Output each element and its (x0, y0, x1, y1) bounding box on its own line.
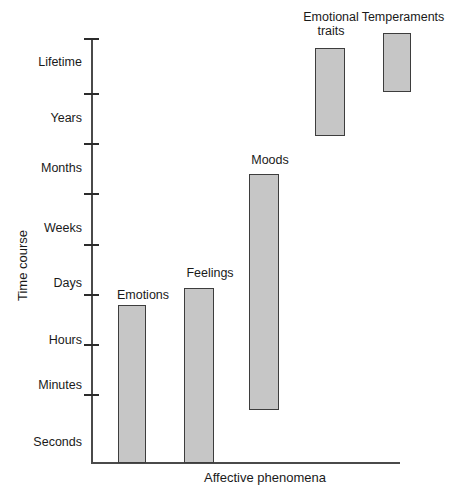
y-axis-tick (84, 143, 99, 145)
y-axis-title: Time course (15, 206, 30, 326)
bar-label: Temperaments (357, 10, 449, 24)
bar-feelings (184, 288, 214, 463)
bar-emotional-traits (315, 48, 345, 136)
y-axis-tick-label: Months (4, 161, 82, 175)
bar-moods (249, 174, 279, 410)
x-axis-title: Affective phenomena (150, 470, 380, 485)
y-axis-tick-label-wrap: Lifetime (0, 55, 82, 69)
y-axis-tick-label-wrap: Days (0, 276, 82, 290)
y-axis-tick (84, 294, 99, 296)
y-axis-tick-label: Seconds (4, 435, 82, 449)
y-axis-tick-label-wrap: Hours (0, 333, 82, 347)
y-axis-tick-label-wrap: Seconds (0, 435, 82, 449)
y-axis-line (91, 38, 93, 464)
y-axis-tick (84, 38, 99, 40)
y-axis-tick-label: Lifetime (4, 55, 82, 69)
y-axis-tick (84, 93, 99, 95)
y-axis-tick (84, 394, 99, 396)
time-course-affective-phenomena-chart: LifetimeYearsMonthsWeeksDaysHoursMinutes… (0, 0, 466, 501)
bar-label: Emotions (106, 288, 180, 302)
y-axis-tick-label-wrap: Weeks (0, 221, 82, 235)
y-axis-tick-label-wrap: Months (0, 161, 82, 175)
y-axis-tick (84, 193, 99, 195)
y-axis-tick (84, 344, 99, 346)
y-axis-tick-label-wrap: Years (0, 111, 82, 125)
y-axis-tick-label: Years (4, 111, 82, 125)
y-axis-tick-label: Minutes (4, 378, 82, 392)
bar-label: Feelings (173, 266, 247, 280)
y-axis-tick (84, 244, 99, 246)
bar-label: Emotional traits (299, 10, 363, 38)
y-axis-tick-label-wrap: Minutes (0, 378, 82, 392)
y-axis-tick-label: Hours (4, 333, 82, 347)
bar-temperaments (383, 33, 411, 92)
bar-label: Moods (240, 153, 300, 167)
bar-emotions (118, 305, 146, 463)
